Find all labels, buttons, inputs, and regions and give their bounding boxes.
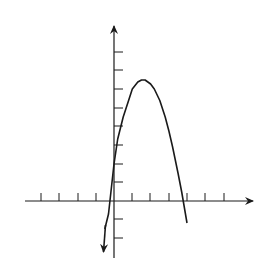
curve-left-arrow (104, 225, 106, 252)
chart-figure (0, 0, 268, 263)
parabola-curve (105, 80, 187, 229)
x-ticks (41, 193, 224, 201)
plot-area (0, 0, 268, 263)
y-ticks (114, 52, 123, 238)
